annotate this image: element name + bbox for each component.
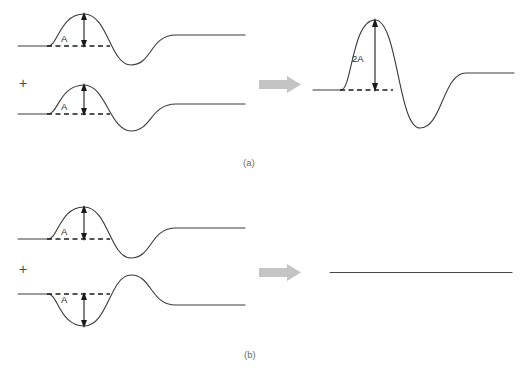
wave-a-result-amplitude-arrow	[372, 18, 378, 92]
wave-b-bottom-inverted-amplitude-label: A	[61, 294, 68, 305]
panel-a: A + A	[18, 12, 514, 168]
wave-a-result-amplitude-label: 2A	[352, 53, 364, 64]
wave-a-bottom-amplitude-arrow	[81, 83, 87, 116]
wave-a-top-amplitude-arrow	[81, 12, 87, 48]
panel-a-result-arrow-icon	[259, 76, 301, 93]
wave-a-top: A	[18, 12, 245, 65]
panel-b-result-arrow-icon	[259, 264, 301, 281]
wave-b-top-curve	[18, 207, 245, 258]
panel-a-plus-operator: +	[19, 75, 27, 91]
wave-b-bottom-inverted-curve	[18, 275, 245, 326]
wave-b-top-amplitude-label: A	[61, 226, 68, 237]
figure-canvas: A + A	[0, 0, 532, 378]
wave-b-top-amplitude-arrow	[81, 205, 87, 241]
wave-b-bottom-inverted: A	[18, 275, 245, 328]
panel-b-plus-operator: +	[19, 261, 27, 277]
wave-a-bottom-amplitude-label: A	[61, 101, 68, 112]
wave-a-bottom: A	[18, 83, 245, 131]
wave-b-bottom-inverted-amplitude-arrow	[81, 292, 87, 328]
panel-b: A + A	[18, 205, 512, 360]
panel-a-label: (a)	[243, 157, 255, 168]
wave-a-bottom-curve	[18, 85, 245, 131]
wave-superposition-figure: A + A	[0, 0, 532, 378]
wave-b-top: A	[18, 205, 245, 258]
wave-a-top-curve	[18, 14, 245, 65]
panel-b-label: (b)	[244, 349, 256, 360]
wave-a-result-curve	[313, 20, 514, 128]
wave-a-top-amplitude-label: A	[61, 33, 68, 44]
wave-a-result: 2A	[313, 18, 514, 128]
